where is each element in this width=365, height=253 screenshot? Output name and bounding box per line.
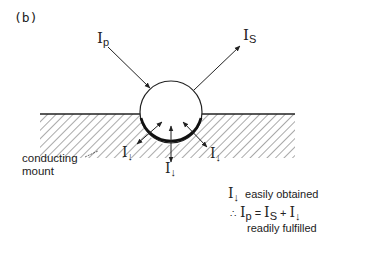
ground-label-center: I↓ (165, 160, 176, 178)
diagram-canvas: (b) Ip IS I↓ I↓ I↓ conducting mount I↓ea… (0, 0, 365, 253)
secondary-beam-arrow (194, 46, 240, 90)
ip-label: Ip (97, 29, 109, 48)
is-label: IS (243, 26, 256, 45)
note-line1: I↓easily obtained (228, 185, 318, 203)
primary-beam-arrow (108, 47, 150, 88)
mount-label-line1: conducting (22, 152, 78, 164)
panel-label: (b) (14, 10, 37, 25)
note-line3: readily fulfilled (247, 222, 317, 234)
mount-label-line2: mount (22, 165, 55, 177)
note-equation: ∴Ip=IS+I↓ (230, 204, 300, 222)
